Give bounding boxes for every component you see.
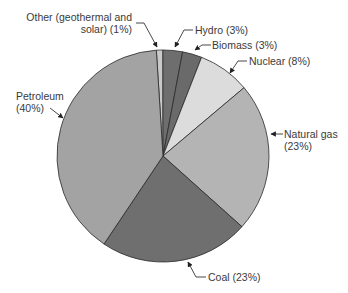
pie-slices	[57, 50, 269, 262]
label-natural-gas: Natural gas (23%)	[284, 128, 338, 152]
arrow-other	[136, 23, 157, 47]
label-coal: Coal (23%)	[208, 271, 261, 283]
label-nuclear: Nuclear (8%)	[249, 55, 310, 67]
arrow-nuclear	[230, 61, 247, 73]
label-hydro: Hydro (3%)	[195, 24, 248, 36]
label-biomass: Biomass (3%)	[212, 39, 277, 51]
arrow-hydro	[175, 30, 193, 47]
arrow-coal	[188, 262, 206, 277]
label-petroleum: Petroleum (40%)	[16, 90, 64, 114]
arrow-biomass	[195, 45, 211, 50]
label-other: Other (geothermal and solar) (1%)	[20, 11, 132, 35]
